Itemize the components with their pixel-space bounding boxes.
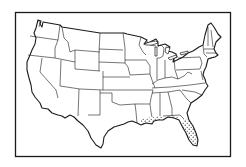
lake-michigan [155,47,157,56]
us-map [0,0,246,167]
